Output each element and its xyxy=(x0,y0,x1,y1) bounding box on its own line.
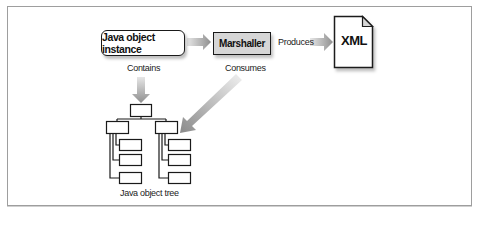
arrow-instance-to-marshaller xyxy=(187,34,211,50)
arrow-consumes xyxy=(180,74,242,133)
xml-label: XML xyxy=(341,33,367,48)
consumes-label: Consumes xyxy=(225,63,266,73)
java-object-tree-label: Java object tree xyxy=(120,188,179,198)
contains-label: Contains xyxy=(127,63,160,73)
produces-label: Produces xyxy=(278,37,314,47)
marshaller-node: Marshaller xyxy=(213,32,271,55)
marshaller-label: Marshaller xyxy=(219,38,265,49)
java-object-instance-label: Java object instance xyxy=(102,31,184,55)
java-object-instance-node: Java object instance xyxy=(101,30,185,56)
object-tree-icon xyxy=(107,105,191,184)
arrow-contains xyxy=(132,77,150,103)
